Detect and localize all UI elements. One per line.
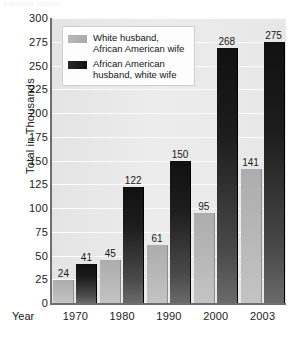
bar-value-label: 141 (242, 157, 259, 168)
y-axis-tick-label: 300 (2, 12, 48, 24)
bar-group: 95268 (192, 18, 239, 303)
cropped-caption-remnant: interracial couples (4, 0, 124, 7)
x-axis: Year 19701980199020002003 (0, 308, 297, 328)
bar: 268 (217, 48, 238, 303)
bar-value-label: 95 (198, 201, 209, 212)
legend-swatch (68, 61, 87, 69)
y-axis-title: Total in Thousands (24, 46, 36, 206)
bar: 141 (241, 169, 262, 303)
legend-item: White husband,African American wife (68, 32, 190, 54)
y-axis-tick-label: 25 (2, 273, 48, 285)
y-axis-tick-label: 75 (2, 226, 48, 238)
legend-item: African Americanhusband, white wife (68, 58, 190, 80)
legend-label: African Americanhusband, white wife (93, 58, 176, 80)
bar: 61 (147, 245, 168, 303)
bar: 95 (194, 213, 215, 303)
bar: 45 (100, 260, 121, 303)
bar: 122 (123, 187, 144, 303)
x-axis-tick-label: 2003 (233, 310, 293, 322)
bar: 150 (170, 161, 191, 304)
bar-group: 141275 (239, 18, 286, 303)
bar-value-label: 41 (81, 252, 92, 263)
bar-value-label: 45 (105, 248, 116, 259)
legend-swatch (68, 35, 87, 43)
bar-value-label: 150 (172, 149, 189, 160)
legend-label: White husband,African American wife (93, 32, 184, 54)
y-axis-tick-label: 50 (2, 250, 48, 262)
bar: 275 (264, 42, 285, 303)
bar-value-label: 275 (265, 30, 282, 41)
bar-value-label: 122 (125, 175, 142, 186)
bar-value-label: 61 (151, 233, 162, 244)
x-axis-title: Year (12, 310, 34, 322)
chart-legend: White husband,African American wifeAfric… (62, 26, 195, 86)
bar-chart-figure: interracial couples 02550751001251501752… (0, 0, 297, 350)
bar-value-label: 268 (218, 36, 235, 47)
bar: 24 (53, 280, 74, 303)
bar-value-label: 24 (58, 268, 69, 279)
bar: 41 (76, 264, 97, 303)
